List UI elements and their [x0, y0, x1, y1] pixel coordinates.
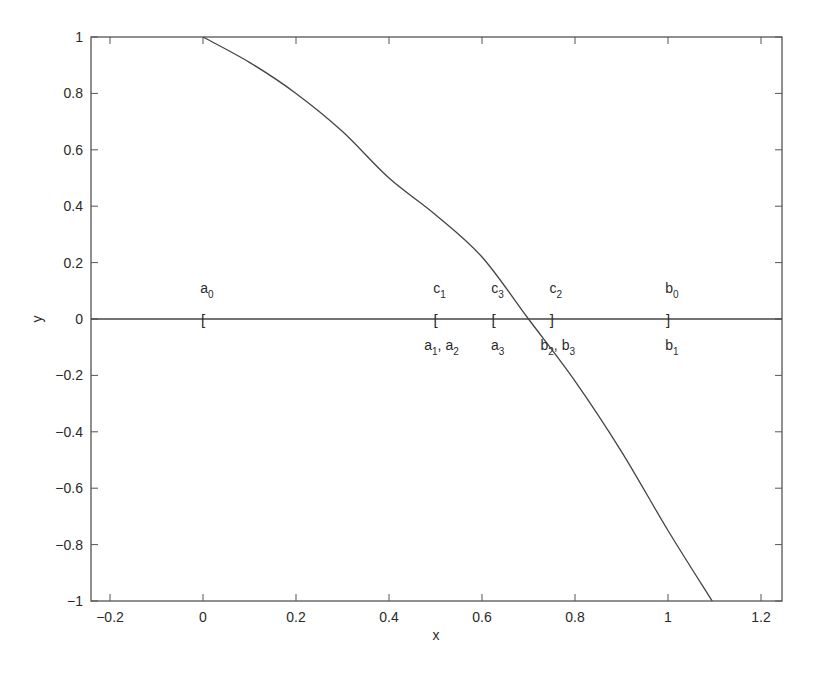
annotation-label-below: a3 — [491, 337, 505, 357]
annotation-label-above: b0 — [665, 280, 679, 300]
y-tick-label: −0.6 — [55, 480, 83, 496]
x-tick-label: 0.4 — [379, 609, 399, 625]
y-axis-label: y — [29, 316, 45, 323]
x-tick-label: −0.2 — [96, 609, 124, 625]
x-tick-label: 1.2 — [751, 609, 771, 625]
y-tick-label: 1 — [75, 29, 83, 45]
annotation-label-below: a1, a2 — [424, 337, 459, 357]
x-tick-label: 0 — [199, 609, 207, 625]
annotation-label-above: c1 — [433, 280, 446, 300]
annotation-label-above: c2 — [549, 280, 562, 300]
y-tick-label: 0.6 — [64, 142, 84, 158]
right-bracket-marker: ] — [666, 311, 670, 328]
x-tick-label: 0.2 — [286, 609, 306, 625]
x-tick-label: 0.8 — [565, 609, 585, 625]
y-tick-label: −0.2 — [55, 367, 83, 383]
y-tick-label: 0.8 — [64, 85, 84, 101]
right-bracket-marker: ] — [550, 311, 554, 328]
y-tick-label: 0.4 — [64, 198, 84, 214]
y-tick-label: −1 — [67, 593, 83, 609]
annotation-label-above: a0 — [200, 280, 214, 300]
y-tick-label: −0.8 — [55, 537, 83, 553]
axis-ticks: −0.200.20.40.60.811.2−1−0.8−0.6−0.4−0.20… — [55, 29, 782, 625]
y-tick-label: −0.4 — [55, 424, 83, 440]
x-tick-label: 0.6 — [472, 609, 492, 625]
annotation-label-below: b2, b3 — [541, 337, 576, 357]
bisection-chart: −0.200.20.40.60.811.2−1−0.8−0.6−0.4−0.20… — [0, 0, 821, 675]
y-tick-label: 0.2 — [64, 255, 84, 271]
x-axis-label: x — [433, 627, 440, 643]
y-tick-label: 0 — [75, 311, 83, 327]
x-tick-label: 1 — [664, 609, 672, 625]
annotation-label-below: b1 — [665, 337, 679, 357]
